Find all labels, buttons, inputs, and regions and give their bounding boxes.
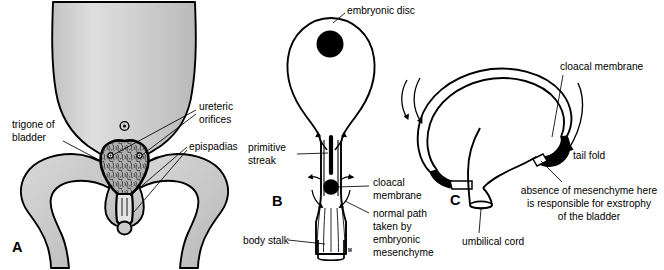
embryonic-disc-shape — [317, 31, 344, 58]
label-ureteric-line1: ureteric — [199, 101, 233, 112]
label-absence-line2: is responsible for exstrophy — [527, 198, 652, 209]
label-body-stalk-mark: M — [348, 248, 352, 253]
label-tail-fold: tail fold — [573, 150, 606, 161]
illustration-canvas: trigone of bladder ureteric orifices epi… — [0, 0, 664, 270]
label-umbilical-cord: umbilical cord — [462, 236, 525, 247]
panel-b-letter: B — [272, 193, 282, 209]
label-normal-path-line3: embryonic — [373, 234, 420, 245]
label-cloacal-membrane-b-line1: cloacal — [373, 177, 405, 188]
ureteric-orifice-right-dot — [139, 155, 141, 157]
panel-a-group: trigone of bladder ureteric orifices epi… — [12, 2, 238, 268]
glans-shape — [118, 222, 132, 235]
label-absence-line3: of the bladder — [558, 211, 621, 222]
mesenchyme-arc-upper-right-head — [348, 174, 354, 180]
label-epispadias: epispadias — [189, 141, 238, 152]
umbilicus-inner — [123, 125, 126, 128]
label-normal-path-line4: mesenchyme — [373, 247, 434, 258]
panel-c-letter: C — [450, 192, 461, 208]
leader-umbilical-cord — [479, 209, 481, 233]
label-body-stalk: body stalk — [243, 235, 290, 246]
label-cloacal-membrane-c: cloacal membrane — [560, 61, 644, 72]
label-trigone-line1: trigone of — [12, 119, 55, 130]
label-trigone-line2: bladder — [12, 132, 47, 143]
left-thigh-shape — [21, 154, 112, 268]
tail-fold-shape — [483, 157, 536, 188]
ureteric-orifice-left-dot — [110, 155, 112, 157]
label-primitive-streak-line1: primitive — [248, 142, 286, 153]
leader-normal-path — [345, 201, 369, 213]
label-normal-path-line1: normal path — [373, 208, 427, 219]
panel-b-group: embryonic disc primitive streak cloacal … — [243, 5, 434, 260]
rotation-arrow-inner — [414, 78, 421, 122]
ring-left-cut-segment — [430, 170, 452, 188]
label-normal-path-line2: taken by — [373, 221, 412, 232]
panel-c-group: cloacal membrane tail fold absence of me… — [402, 61, 658, 247]
tail-fold-arrow — [568, 83, 583, 150]
label-primitive-streak-line2: streak — [248, 155, 277, 166]
right-thigh-shape — [137, 154, 228, 268]
panel-a-letter: A — [12, 239, 23, 255]
mesenchyme-arc-upper-left-head — [308, 174, 314, 180]
rotation-arrow-left — [402, 80, 407, 118]
figure-container: trigone of bladder ureteric orifices epi… — [0, 0, 664, 270]
label-embryonic-disc: embryonic disc — [347, 5, 415, 16]
epispadias-groove-shape — [116, 194, 133, 225]
label-ureteric-line2: orifices — [199, 114, 231, 125]
label-absence-line1: absence of mesenchyme here — [521, 185, 658, 196]
label-cloacal-membrane-b-line2: membrane — [373, 190, 422, 201]
umbilical-cord-left-wall — [468, 128, 480, 204]
